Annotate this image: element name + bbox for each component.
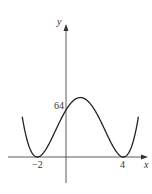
tick-label-4: 4: [120, 159, 125, 170]
y-axis-label: y: [56, 16, 62, 27]
curve-line: [22, 98, 138, 157]
tick-label-64: 64: [54, 100, 64, 111]
y-axis-arrow-icon: [64, 24, 69, 31]
x-axis-label: x: [143, 159, 149, 170]
tick-label-neg2: −2: [32, 159, 43, 170]
quartic-graph: y x −2 4 64: [0, 0, 152, 194]
